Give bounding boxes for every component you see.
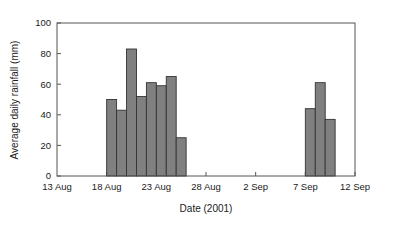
- chart-canvas: 020406080100 13 Aug18 Aug23 Aug28 Aug2 S…: [0, 0, 394, 228]
- bar: [107, 100, 117, 177]
- x-tick-label: 7 Sep: [293, 181, 318, 192]
- rainfall-bar-chart: 020406080100 13 Aug18 Aug23 Aug28 Aug2 S…: [0, 0, 394, 228]
- bar: [176, 138, 186, 176]
- y-tick-label: 20: [40, 140, 51, 151]
- x-tick-label: 13 Aug: [42, 181, 72, 192]
- bar: [325, 119, 335, 176]
- bar: [117, 110, 127, 176]
- x-axis-title: Date (2001): [180, 203, 233, 214]
- x-tick-label: 2 Sep: [243, 181, 268, 192]
- y-tick-label: 100: [35, 17, 51, 28]
- y-tick-label: 0: [46, 170, 51, 181]
- x-tick-label: 18 Aug: [92, 181, 122, 192]
- x-tick-label: 12 Sep: [340, 181, 370, 192]
- y-tick-label: 80: [40, 48, 51, 59]
- bar: [127, 49, 137, 176]
- y-tick-label: 60: [40, 79, 51, 90]
- bar: [305, 109, 315, 176]
- bar: [156, 86, 166, 176]
- bar: [146, 83, 156, 176]
- x-tick-label: 23 Aug: [142, 181, 172, 192]
- bar: [315, 83, 325, 176]
- y-axis-title: Average daily rainfall (mm): [9, 41, 20, 160]
- bar-series: [107, 49, 335, 176]
- bar: [136, 96, 146, 176]
- x-tick-label: 28 Aug: [191, 181, 221, 192]
- bar: [166, 77, 176, 176]
- y-tick-label: 40: [40, 109, 51, 120]
